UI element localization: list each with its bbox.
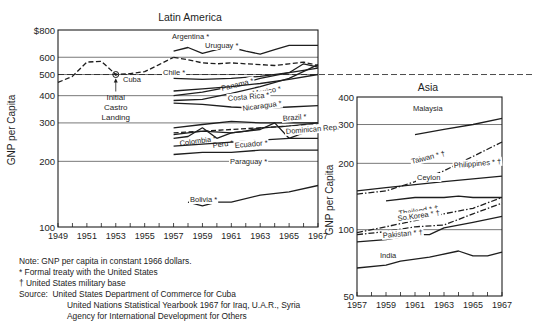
x-tick-label: 1961	[405, 300, 425, 310]
series-label: Paraguay *	[230, 157, 267, 166]
series-label: Malaysia	[413, 104, 443, 113]
note-dagger: † United States military base	[19, 278, 300, 289]
y-tick-label: 500	[39, 69, 55, 80]
y-tick-label: 400	[39, 90, 55, 101]
source-line-1: Source: United States Department of Comm…	[19, 289, 300, 300]
series-label: Ecuador *	[234, 138, 268, 150]
x-tick-label: 1955	[135, 231, 155, 241]
series-line-india	[357, 251, 502, 268]
source-label: Source:	[19, 289, 48, 299]
series-label: Philippines * †	[453, 157, 501, 170]
series-line-malaysia	[415, 118, 502, 134]
series-label: Uruguay *	[205, 41, 238, 50]
y-axis-label: GNP per Capita	[6, 94, 17, 165]
x-tick-label: 1963	[434, 300, 454, 310]
series-label: Ceylon	[417, 173, 440, 182]
series-line-uruguay	[174, 57, 318, 65]
x-tick-label: 1957	[164, 231, 184, 241]
source-1: United States Department of Commerce for…	[53, 289, 236, 299]
y-tick-label: 400	[338, 92, 354, 103]
x-tick-label: 1963	[250, 231, 270, 241]
y-tick-label: 200	[39, 156, 55, 167]
x-tick-label: 1951	[77, 231, 97, 241]
series-line-paraguay	[174, 150, 318, 154]
x-tick-label: 1957	[347, 300, 367, 310]
note-text: Note: GNP per capita in constant 1966 do…	[19, 256, 300, 267]
y-tick-label: 200	[338, 158, 354, 169]
series-label: Cuba	[123, 75, 142, 84]
y-axis-label: GNP per Capita	[324, 164, 335, 235]
series-label: Brazil *	[282, 112, 307, 123]
y-tick-label: 300	[39, 117, 55, 128]
source-2: United Nations Statistical Yearbook 1967…	[19, 300, 300, 311]
chart-panel-asia: MalaysiaTaiwan * †Philippines * †CeylonT…	[357, 97, 503, 296]
x-tick-label: 1959	[192, 231, 212, 241]
series-line-pakistan	[357, 216, 502, 242]
panel-title: Latin America	[158, 11, 222, 23]
plot-frame	[58, 30, 318, 227]
x-tick-label: 1959	[376, 300, 396, 310]
y-tick-label: 600	[39, 52, 55, 63]
series-line-ceylon	[386, 196, 502, 201]
x-tick-label: 1967	[492, 300, 512, 310]
series-line-taiwan	[357, 142, 502, 194]
x-tick-label: 1961	[221, 231, 241, 241]
series-label: Peru *	[212, 138, 234, 150]
chart-panel-latin-america: Argentina *Uruguay *Chile *Panama *Mexic…	[58, 30, 535, 227]
annotation-text: Castro	[104, 103, 128, 112]
x-tick-label: 1965	[279, 231, 299, 241]
panel-title: Asia	[418, 81, 439, 93]
annotation-text: Landing	[102, 113, 130, 122]
series-label: Chile *	[163, 68, 185, 77]
x-tick-label: 1949	[48, 231, 68, 241]
y-tick-label: 300	[338, 119, 354, 130]
note-asterisk: * Formal treaty with the United States	[19, 267, 300, 278]
y-tick-label: $800	[34, 25, 55, 36]
series-label: Argentina *	[172, 32, 209, 41]
x-tick-label: 1953	[106, 231, 126, 241]
chart-notes: Note: GNP per capita in constant 1966 do…	[19, 256, 300, 322]
y-tick-label: 100	[338, 224, 354, 235]
series-label: India	[380, 251, 397, 260]
annotation-text: Initial	[106, 93, 125, 102]
x-tick-label: 1965	[463, 300, 483, 310]
source-3: Agency for International Development for…	[19, 311, 300, 322]
series-label: Dominican Rep.	[285, 122, 339, 136]
series-line-argentina	[174, 45, 318, 54]
series-label: Bolivia *	[190, 195, 217, 204]
